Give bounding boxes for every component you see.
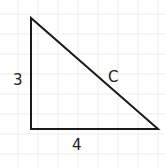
side-label-vertical: 3 bbox=[13, 71, 23, 89]
side-label-horizontal: 4 bbox=[72, 136, 82, 154]
grid-background bbox=[0, 0, 165, 167]
triangle-diagram: 3 C 4 bbox=[0, 0, 165, 167]
side-label-hypotenuse: C bbox=[108, 68, 118, 86]
